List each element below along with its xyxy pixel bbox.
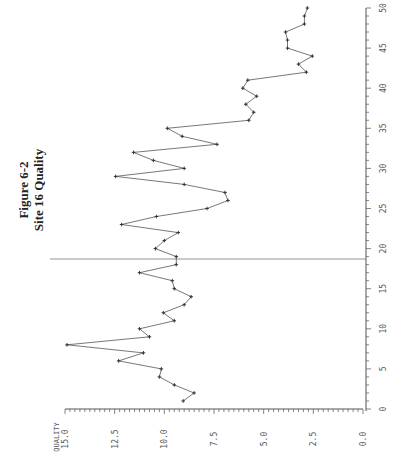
quality-tick-label: 2.5 xyxy=(309,432,318,447)
time-tick-label: 25 xyxy=(379,204,388,214)
time-tick-label: 20 xyxy=(379,244,388,254)
quality-tick-label: 15.0 xyxy=(61,429,70,448)
time-tick-label: 15 xyxy=(379,284,388,294)
title-line-1: Figure 6-2 xyxy=(16,161,31,218)
time-tick-label: 10 xyxy=(379,324,388,334)
quality-tick-label: 0.0 xyxy=(359,432,368,447)
quality-axis-label: QUALITY xyxy=(53,421,61,451)
quality-tick-label: 7.5 xyxy=(210,432,219,447)
time-axis: 05101520253035404550 xyxy=(366,3,388,411)
quality-chart: Figure 6-2 Site 16 Quality 15.012.510.07… xyxy=(0,0,398,455)
time-tick-label: 45 xyxy=(379,43,388,53)
quality-axis: 15.012.510.07.55.02.50.0 xyxy=(61,409,368,449)
time-tick-label: 5 xyxy=(379,366,388,371)
time-tick-label: 40 xyxy=(379,83,388,93)
time-tick-label: 0 xyxy=(379,406,388,411)
quality-tick-label: 5.0 xyxy=(260,432,269,447)
quality-series-markers xyxy=(65,6,314,403)
quality-tick-label: 10.0 xyxy=(160,429,169,448)
quality-series-line xyxy=(67,8,312,401)
time-tick-label: 30 xyxy=(379,163,388,173)
title-line-2: Site 16 Quality xyxy=(31,148,46,231)
quality-tick-label: 12.5 xyxy=(111,429,120,448)
chart-title: Figure 6-2 Site 16 Quality xyxy=(16,148,46,231)
time-tick-label: 50 xyxy=(379,3,388,13)
time-tick-label: 35 xyxy=(379,123,388,133)
